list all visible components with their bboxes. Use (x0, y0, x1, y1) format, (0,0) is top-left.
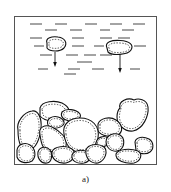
figure-caption: a) (0, 174, 171, 184)
sediment-pile (17, 99, 153, 163)
falling-particle-left (47, 37, 66, 51)
falling-particle-right (106, 40, 132, 54)
arrow-down-left (53, 52, 57, 67)
arrow-down-right (118, 55, 122, 73)
sedimentation-diagram (0, 0, 171, 192)
